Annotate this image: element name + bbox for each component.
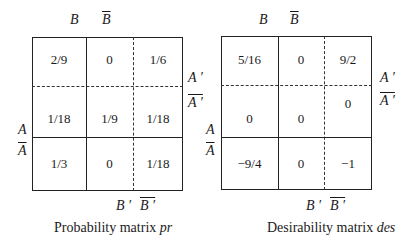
row-label-a: A (206, 122, 215, 138)
cell-r0-c0: 5/16 (221, 53, 278, 67)
caption-desirability: Desirability matrix des (267, 220, 395, 236)
cell-r1-c1: 0 (278, 112, 324, 126)
cell-r1-c0: 0 (221, 112, 278, 126)
caption-symbol: des (377, 220, 396, 235)
cell-r1-c2: 1/18 (133, 112, 183, 126)
cell-r2-c1: 0 (86, 157, 133, 171)
col-label-not-b: B (290, 12, 299, 28)
col-label-b-prime: B ′ (116, 198, 131, 214)
row-label-a: A (18, 122, 27, 138)
cell-r2-c1: 0 (278, 157, 324, 171)
divider-a-solid (221, 137, 372, 138)
cell-r0-c2: 9/2 (324, 53, 372, 67)
caption-symbol: pr (160, 220, 172, 235)
cell-r1-c1: 1/9 (86, 112, 133, 126)
cell-r2-c0: 1/3 (32, 157, 86, 171)
row-label-a-prime: A ′ (380, 70, 395, 86)
caption-text: Probability matrix (54, 220, 160, 235)
cell-r0-c1: 0 (278, 53, 324, 67)
col-label-b-prime: B ′ (306, 198, 321, 214)
cell-r0-c0: 2/9 (32, 53, 86, 67)
row-label-a-prime: A ′ (188, 70, 203, 86)
col-label-not-b: B (102, 12, 111, 28)
cell-r1-c0: 1/18 (32, 112, 86, 126)
col-label-not-b-prime: B ′ (140, 198, 155, 214)
cell-r0-c2: 1/6 (133, 53, 183, 67)
cell-r1-c2: 0 (324, 97, 372, 111)
row-label-not-a-prime: A ′ (188, 95, 203, 111)
divider-a-prime-dashed (221, 85, 372, 86)
col-label-b: B (70, 12, 79, 28)
cell-r2-c2: 1/18 (133, 157, 183, 171)
caption-text: Desirability matrix (267, 220, 377, 235)
cell-r2-c0: −9/4 (221, 157, 278, 171)
cell-r2-c2: −1 (324, 157, 372, 171)
cell-r0-c1: 0 (86, 53, 133, 67)
divider-a-prime-dashed (32, 86, 183, 87)
row-label-not-a: A (206, 143, 215, 159)
caption-probability: Probability matrix pr (54, 220, 172, 236)
row-label-not-a: A (18, 143, 27, 159)
col-label-not-b-prime: B ′ (330, 198, 345, 214)
col-label-b: B (259, 12, 268, 28)
divider-a-solid (32, 137, 183, 138)
row-label-not-a-prime: A ′ (380, 93, 395, 109)
